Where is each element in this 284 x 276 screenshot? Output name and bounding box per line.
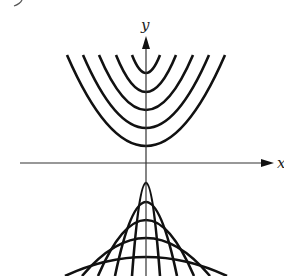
level-curves-diagram: y x: [0, 0, 284, 276]
x-axis-label: x: [277, 154, 284, 172]
x-axis-arrowhead: [261, 159, 274, 167]
y-axis-arrowhead: [142, 36, 150, 49]
y-axis-label: y: [140, 16, 150, 34]
corner-mark: [14, 0, 22, 6]
